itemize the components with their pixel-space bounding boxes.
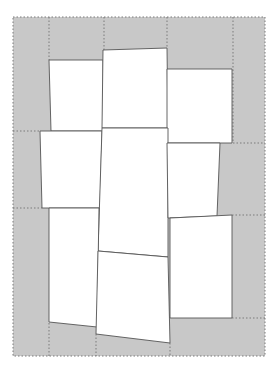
piece-c[interactable] bbox=[167, 69, 232, 143]
piece-g[interactable] bbox=[49, 208, 99, 327]
piece-e[interactable] bbox=[98, 128, 168, 257]
puzzle-pieces bbox=[40, 48, 232, 343]
piece-d[interactable] bbox=[40, 131, 102, 208]
piece-f[interactable] bbox=[167, 143, 220, 218]
piece-a[interactable] bbox=[49, 60, 103, 131]
piece-i[interactable] bbox=[170, 215, 232, 318]
piece-h[interactable] bbox=[96, 251, 170, 343]
piece-b[interactable] bbox=[102, 48, 168, 128]
puzzle-diagram bbox=[0, 0, 278, 367]
